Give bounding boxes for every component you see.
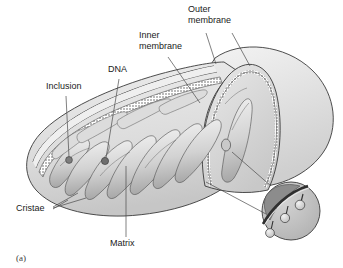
atp-particle [295,200,305,210]
label-inner-membrane: Inner membrane [139,30,182,51]
figure-caption: (a) [16,253,26,263]
label-outer-membrane: Outer membrane [188,4,231,25]
mitochondrion-diagram-svg: Outer membrane Inner membrane DNA Inclus… [0,0,343,268]
mitochondrion-figure: Outer membrane Inner membrane DNA Inclus… [0,0,343,268]
label-dna: DNA [108,64,127,74]
label-cristae: Cristae [16,203,45,213]
inclusion-granule [66,157,73,164]
atp-synthase-inset [262,182,320,240]
leader-outer-membrane [206,33,216,64]
label-inclusion: Inclusion [46,81,82,91]
label-matrix: Matrix [110,238,135,248]
matrix-granule-right [221,139,230,151]
atp-particle [266,229,275,238]
atp-particle [280,213,289,222]
dna-granule [101,157,108,164]
